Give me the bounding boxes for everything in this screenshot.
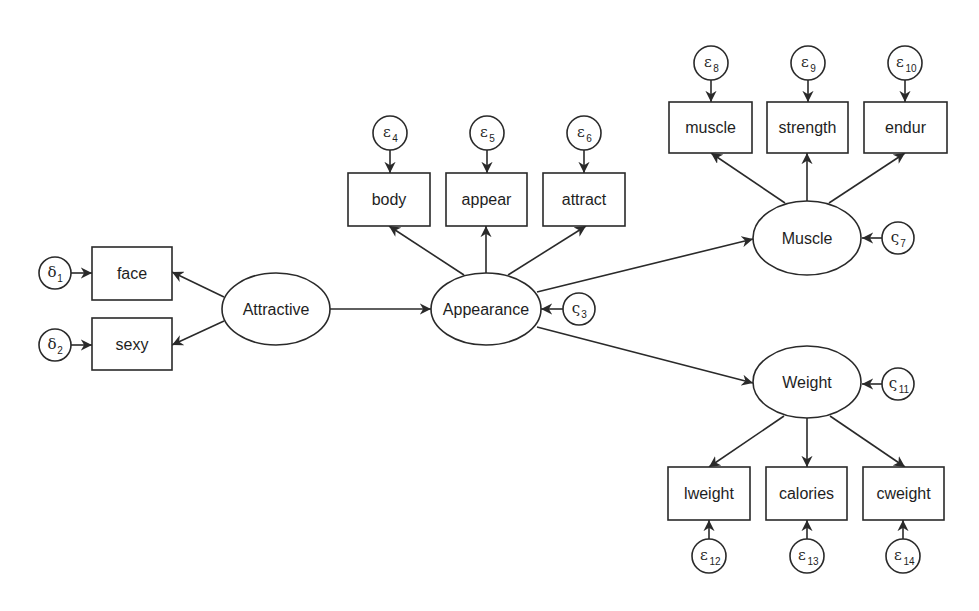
error-symbol: δ (47, 335, 56, 353)
observed-label: strength (779, 119, 837, 136)
path-weight_latent-to-cweight (830, 416, 905, 467)
error-eps9: ε9 (791, 46, 825, 80)
observed-label: attract (562, 191, 607, 208)
error-symbol: ς (889, 374, 897, 392)
latent-appearance: Appearance (431, 273, 541, 345)
arrow (709, 416, 784, 467)
observed-label: muscle (685, 119, 736, 136)
path-appearance-to-body (389, 226, 464, 275)
error-subscript: 8 (713, 63, 719, 74)
error-symbol: ς (572, 299, 580, 317)
error-subscript: 1 (57, 273, 63, 284)
error-symbol: ε (894, 546, 902, 564)
error-symbol: ε (700, 546, 708, 564)
error-symbol: ς (891, 228, 899, 246)
arrow (508, 226, 586, 275)
path-weight_latent-to-lweight (709, 416, 784, 467)
observed-cweight: cweight (863, 467, 944, 520)
error-subscript: 12 (709, 556, 721, 567)
arrow (172, 272, 224, 297)
path-muscle_latent-to-endur (829, 153, 905, 203)
error-subscript: 4 (392, 133, 398, 144)
observed-lweight: lweight (668, 467, 750, 520)
observed-label: lweight (684, 485, 734, 502)
observed-label: cweight (876, 485, 931, 502)
arrow (389, 226, 464, 275)
error-eps10: ε10 (888, 46, 922, 80)
observed-attract: attract (543, 173, 625, 226)
observed-face: face (92, 247, 172, 300)
error-symbol: ε (801, 53, 809, 71)
error-eps13: ε13 (790, 539, 824, 573)
error-eps14: ε14 (886, 539, 920, 573)
sem-path-diagram: facesexybodyappearattractmusclestrengthe… (0, 0, 979, 611)
arrow (829, 153, 905, 203)
error-symbol: ε (383, 123, 391, 141)
path-muscle_latent-to-muscle (711, 153, 785, 203)
arrow (172, 321, 224, 345)
path-appearance-to-weight_latent (537, 327, 753, 383)
observed-label: calories (779, 485, 834, 502)
error-subscript: 14 (903, 556, 915, 567)
error-subscript: 7 (900, 238, 906, 249)
observed-calories: calories (766, 467, 847, 520)
error-subscript: 13 (807, 556, 819, 567)
observed-label: appear (462, 191, 512, 208)
observed-strength: strength (767, 102, 848, 153)
error-subscript: 6 (586, 133, 592, 144)
observed-label: face (117, 265, 147, 282)
latent-muscle_latent: Muscle (753, 201, 861, 275)
observed-appear: appear (446, 173, 527, 226)
error-delta1: δ1 (39, 257, 71, 289)
arrow (711, 153, 785, 203)
error-eps4: ε4 (373, 116, 407, 150)
latent-attractive: Attractive (222, 273, 330, 345)
path-appearance-to-muscle_latent (537, 239, 753, 292)
error-eps6: ε6 (567, 116, 601, 150)
error-symbol: δ (47, 263, 56, 281)
arrow (830, 416, 905, 467)
error-symbol: ε (480, 123, 488, 141)
path-attractive-to-sexy (172, 321, 224, 345)
error-subscript: 9 (810, 63, 816, 74)
error-subscript: 2 (57, 345, 63, 356)
latent-label: Weight (782, 374, 832, 391)
error-subscript: 10 (905, 63, 917, 74)
error-symbol: ε (798, 546, 806, 564)
error-zeta3: ς3 (563, 293, 595, 325)
observed-sexy: sexy (92, 318, 172, 370)
path-attractive-to-face (172, 272, 224, 297)
observed-endur: endur (864, 102, 947, 153)
latent-label: Attractive (243, 301, 310, 318)
latent-weight_latent: Weight (753, 346, 861, 418)
observed-label: body (372, 191, 407, 208)
error-eps8: ε8 (694, 46, 728, 80)
error-zeta7: ς7 (882, 222, 914, 254)
error-zeta11: ς11 (882, 368, 914, 400)
path-appearance-to-attract (508, 226, 586, 275)
latent-variables-layer: AttractiveAppearanceMuscleWeight (222, 201, 861, 418)
observed-label: endur (885, 119, 927, 136)
error-subscript: 5 (489, 133, 495, 144)
arrow (537, 327, 753, 383)
observed-muscle: muscle (669, 102, 752, 153)
error-symbol: ε (577, 123, 585, 141)
arrow (537, 239, 753, 292)
latent-label: Appearance (443, 301, 529, 318)
error-symbol: ε (896, 53, 904, 71)
error-eps12: ε12 (692, 539, 726, 573)
error-subscript: 3 (581, 309, 587, 320)
error-subscript: 11 (899, 384, 910, 395)
error-delta2: δ2 (39, 329, 71, 361)
observed-label: sexy (116, 336, 149, 353)
latent-label: Muscle (782, 230, 833, 247)
observed-body: body (348, 173, 430, 226)
error-eps5: ε5 (470, 116, 504, 150)
error-symbol: ε (704, 53, 712, 71)
